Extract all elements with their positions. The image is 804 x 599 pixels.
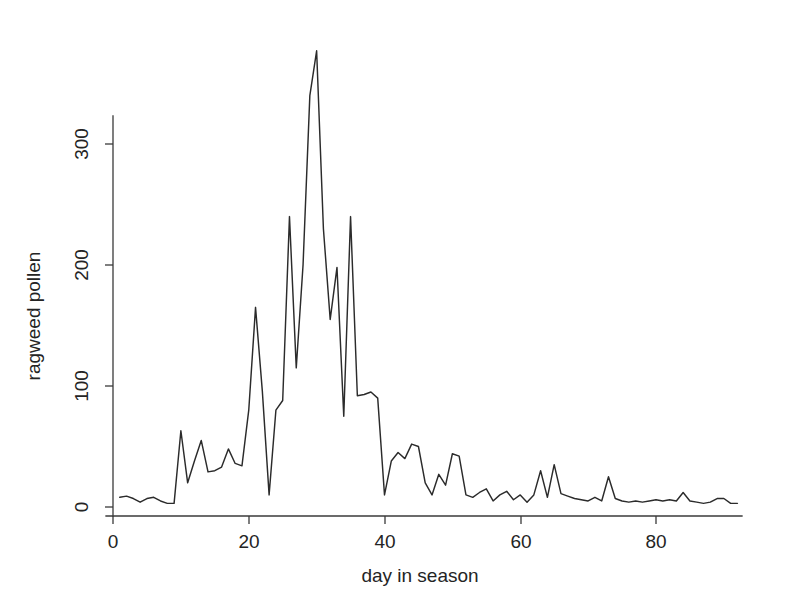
x-tick-label-40: 40 [374,531,395,552]
y-tick-label-100: 100 [71,370,92,402]
x-axis-ticks [113,516,656,524]
line-chart-svg: 0 100 200 300 ragweed pollen 0 20 40 60 … [0,0,804,599]
y-axis-ticks [105,144,113,507]
chart-figure: 0 100 200 300 ragweed pollen 0 20 40 60 … [0,0,804,599]
pollen-series-line [120,51,738,504]
x-tick-label-80: 80 [645,531,666,552]
y-axis-title: ragweed pollen [23,252,44,381]
x-tick-label-20: 20 [238,531,259,552]
x-axis-title: day in season [361,565,478,586]
y-tick-label-0: 0 [71,502,92,513]
y-tick-label-200: 200 [71,249,92,281]
x-tick-label-0: 0 [108,531,119,552]
y-tick-label-300: 300 [71,128,92,160]
x-tick-label-60: 60 [510,531,531,552]
